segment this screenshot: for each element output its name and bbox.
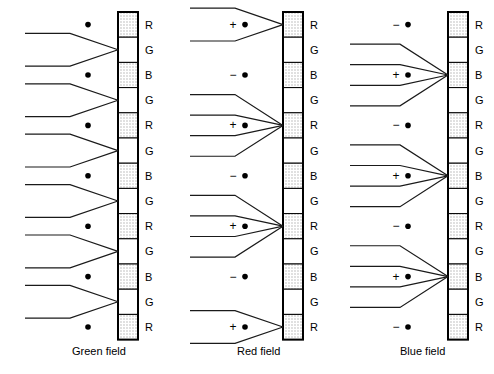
beam-spot-dot [85,324,91,330]
beam-spot-dot [85,173,91,179]
phosphor-cell-label: G [145,195,154,207]
columns-layer: RGBGRGBGRGBGRGreen fieldRGBGRGBGRGBGR+−+… [25,8,484,357]
charge-plus-sign: + [229,18,236,32]
electron-beam-ray [25,185,118,201]
phosphor-cell-label: R [310,220,318,232]
phosphor-cell-label: B [145,69,152,81]
electron-beam-ray [25,201,118,217]
electron-beam-ray [25,84,118,100]
charge-plus-sign: + [229,118,236,132]
phosphor-cell-label: G [475,195,484,207]
phosphor-cell-label: G [145,296,154,308]
diagram-canvas: RGBGRGBGRGBGRGreen fieldRGBGRGBGRGBGR+−+… [0,0,494,374]
beam-spot-dot [85,22,91,28]
phosphor-cell-b-6 [448,163,468,188]
phosphor-cell-label: G [145,245,154,257]
phosphor-cell-g-5 [283,138,303,163]
phosphor-cell-label: B [475,271,482,283]
phosphor-cell-r-0 [448,12,468,37]
phosphor-cell-label: G [310,94,319,106]
phosphor-cell-g-3 [448,88,468,113]
phosphor-cell-label: B [310,69,317,81]
phosphor-cell-r-8 [448,214,468,239]
phosphor-cell-label: G [145,94,154,106]
phosphor-cell-g-3 [118,88,138,113]
beam-spot-dot [242,22,248,28]
phosphor-cell-g-1 [448,37,468,62]
phosphor-cell-label: G [310,145,319,157]
phosphor-cell-g-1 [283,37,303,62]
phosphor-cell-b-6 [118,163,138,188]
phosphor-cell-g-9 [448,239,468,264]
beam-spot-dot [405,324,411,330]
phosphor-cell-label: G [145,145,154,157]
beam-spot-dot [405,173,411,179]
beam-rays-green-field [25,33,118,318]
phosphor-cell-label: R [475,119,483,131]
phosphor-cell-r-8 [283,214,303,239]
phosphor-cell-r-12 [118,314,138,339]
phosphor-cell-label: B [310,170,317,182]
beam-spot-dot [405,274,411,280]
phosphor-cell-label: R [310,321,318,333]
phosphor-cell-label: R [475,321,483,333]
electron-beam-ray [25,33,118,49]
beam-spot-dot [405,223,411,229]
phosphor-cell-g-5 [118,138,138,163]
phosphor-strip-blue-field: RGBGRGBGRGBGR [448,12,484,340]
phosphor-cell-r-12 [283,314,303,339]
phosphor-cell-label: B [145,170,152,182]
phosphor-cell-g-7 [283,188,303,213]
phosphor-cell-label: R [145,220,153,232]
charge-minus-sign: − [392,219,399,233]
phosphor-cell-label: G [475,245,484,257]
phosphor-cell-label: G [475,145,484,157]
phosphor-cell-label: R [145,321,153,333]
column-caption-green-field: Green field [72,345,126,357]
column-blue-field: RGBGRGBGRGBGR−+−+−+−Blue field [350,12,484,357]
beam-spot-dot [242,123,248,129]
phosphor-cell-r-12 [448,314,468,339]
phosphor-cell-label: B [310,271,317,283]
phosphor-strip-green-field: RGBGRGBGRGBGR [118,12,154,340]
markers-red-field: +−+−+−+ [229,18,247,334]
crt-phosphor-diagram: RGBGRGBGRGBGRGreen fieldRGBGRGBGRGBGR+−+… [0,0,494,374]
beam-spot-dot [242,72,248,78]
beam-spot-dot [85,274,91,280]
phosphor-cell-r-0 [118,12,138,37]
charge-minus-sign: − [392,118,399,132]
phosphor-cell-r-0 [283,12,303,37]
phosphor-cell-g-1 [118,37,138,62]
phosphor-cell-label: G [145,44,154,56]
phosphor-cell-g-11 [448,289,468,314]
electron-beam-ray [25,50,118,66]
charge-minus-sign: − [229,270,236,284]
phosphor-cell-label: R [310,119,318,131]
electron-beam-ray [25,100,118,116]
phosphor-cell-g-11 [118,289,138,314]
electron-beam-ray [25,151,118,167]
beam-spot-dot [405,22,411,28]
phosphor-cell-g-9 [118,239,138,264]
phosphor-cell-b-2 [118,62,138,87]
phosphor-cell-label: G [310,195,319,207]
phosphor-cell-b-10 [448,264,468,289]
phosphor-cell-label: G [475,94,484,106]
phosphor-cell-g-5 [448,138,468,163]
phosphor-cell-label: G [475,296,484,308]
charge-minus-sign: − [392,18,399,32]
phosphor-strip-red-field: RGBGRGBGRGBGR [283,12,319,340]
charge-minus-sign: − [229,68,236,82]
phosphor-cell-r-4 [118,113,138,138]
phosphor-cell-r-8 [118,214,138,239]
phosphor-cell-label: B [475,170,482,182]
electron-beam-ray [25,235,118,251]
charge-plus-sign: + [392,68,399,82]
electron-beam-ray [25,302,118,318]
phosphor-cell-g-11 [283,289,303,314]
beam-spot-dot [242,324,248,330]
electron-beam-ray [25,134,118,150]
phosphor-cell-b-10 [118,264,138,289]
phosphor-cell-label: B [475,69,482,81]
phosphor-cell-label: B [145,271,152,283]
